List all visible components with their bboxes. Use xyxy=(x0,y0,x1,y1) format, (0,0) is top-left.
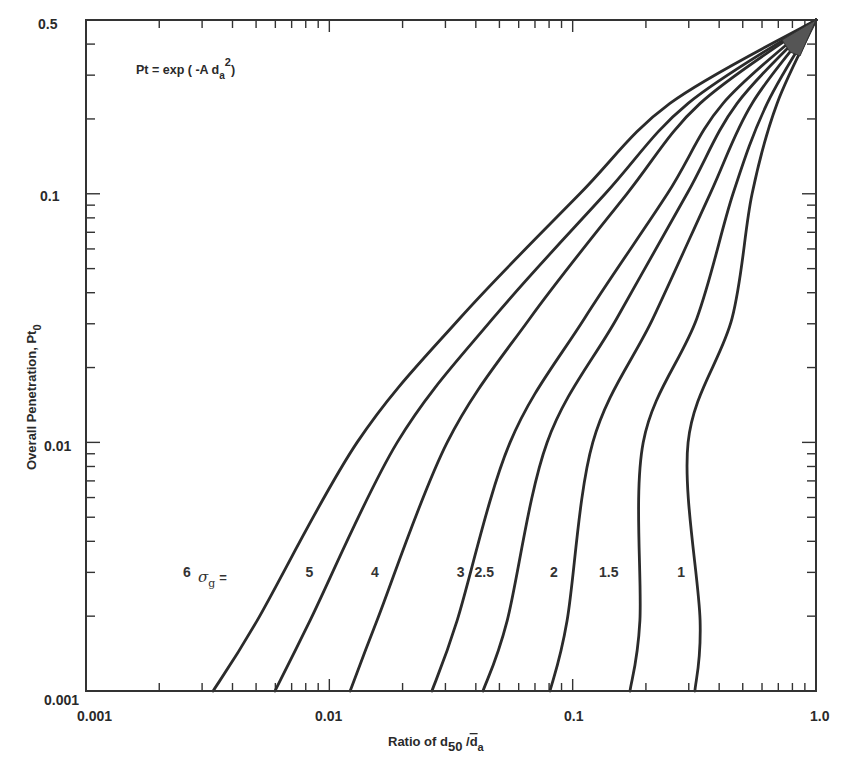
curve-sigma-1-5 xyxy=(630,20,816,691)
equation-annotation: Pt = exp ( -A da2) xyxy=(136,56,235,81)
plot-frame xyxy=(86,20,816,691)
minor-ticks xyxy=(86,20,816,691)
curve-label-1-5: 1.5 xyxy=(599,564,619,580)
curve-sigma-4 xyxy=(350,20,816,691)
x-tick-1: 0.01 xyxy=(315,708,342,724)
curve-labels: 65432.521.51 xyxy=(183,564,685,580)
x-tick-2: 0.1 xyxy=(564,708,584,724)
curve-label-5: 5 xyxy=(306,564,314,580)
curve-sigma-5 xyxy=(275,20,816,691)
x-tick-3: 1.0 xyxy=(810,708,830,724)
curve-label-6: 6 xyxy=(183,564,191,580)
y-tick-0: 0.001 xyxy=(44,692,79,708)
y-tick-3: 0.5 xyxy=(38,16,58,32)
penetration-chart: 65432.521.51 0.001 0.01 0.1 1.0 0.001 0.… xyxy=(0,0,848,775)
x-axis-title: Ratio of d50 /da xyxy=(388,734,485,754)
curve-label-2: 2 xyxy=(550,564,558,580)
y-axis-title: Overall Penetration, Pt0 xyxy=(24,324,43,470)
y-tick-2: 0.1 xyxy=(40,188,60,204)
curve-label-3: 3 xyxy=(457,564,465,580)
curve-sigma-1 xyxy=(687,20,816,691)
curve-label-1: 1 xyxy=(677,564,685,580)
curve-label-2-5: 2.5 xyxy=(475,564,495,580)
sigma-g-label: σg= xyxy=(198,568,227,590)
x-tick-0: 0.001 xyxy=(77,708,112,724)
curves xyxy=(213,20,816,691)
curve-label-4: 4 xyxy=(371,564,379,580)
y-tick-1: 0.01 xyxy=(44,438,71,454)
